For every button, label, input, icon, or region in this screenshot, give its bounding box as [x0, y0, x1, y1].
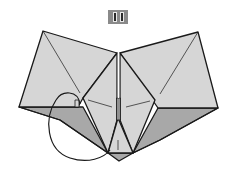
center-slit	[117, 98, 121, 120]
origami-diagram	[0, 0, 231, 189]
bottom-flap	[108, 153, 133, 161]
small-tab	[75, 100, 79, 107]
